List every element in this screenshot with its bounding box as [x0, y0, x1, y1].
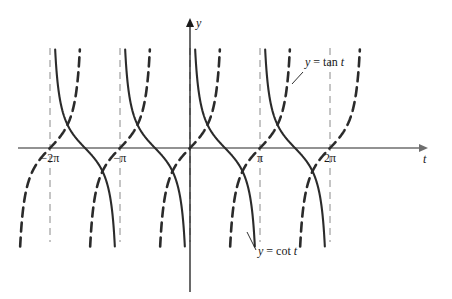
- trig-graph-figure: y t −2π−ππ2π y = tan t y = cot t: [0, 0, 452, 299]
- y-axis-label: y: [196, 16, 201, 31]
- x-tick-label-2: π: [244, 151, 276, 166]
- cot-label-eq: = cot: [263, 244, 293, 258]
- tan-curve-label: y = tan t: [305, 55, 344, 70]
- x-axis-arrowhead: [419, 144, 428, 152]
- tan-label-eq: = tan: [310, 55, 340, 69]
- cot-label-t: t: [294, 244, 297, 258]
- leader-line-0: [292, 72, 303, 84]
- y-axis-arrowhead: [186, 18, 194, 27]
- x-tick-label-3: 2π: [314, 151, 346, 166]
- tan-label-t: t: [341, 55, 344, 69]
- cot-curve-label: y = cot t: [258, 244, 297, 259]
- x-axis-label: t: [423, 152, 426, 167]
- plot-canvas: [0, 0, 452, 299]
- x-tick-label-0: −2π: [34, 151, 66, 166]
- x-tick-label-1: −π: [104, 151, 136, 166]
